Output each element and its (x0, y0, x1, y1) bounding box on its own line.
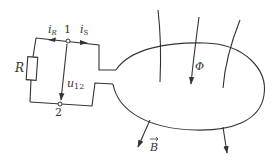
node-1 (66, 39, 70, 43)
current-arrow-R (48, 38, 56, 43)
label-u12: u12 (67, 77, 84, 91)
top-wire (36, 38, 116, 70)
loop (113, 43, 264, 130)
field-arrow (223, 127, 227, 153)
flux-line-arrow (191, 17, 199, 84)
current-arrow-S (80, 40, 88, 45)
label-iS: iS (80, 23, 89, 37)
resistor (26, 57, 38, 81)
label-B: B (149, 141, 158, 154)
left-wire-lower (30, 80, 31, 102)
label-flux: Φ (195, 60, 204, 73)
label-R: R (14, 61, 24, 75)
circuit-diagram: iR 1 iS R u12 2 Φ B (0, 0, 275, 167)
voltage-arrow (61, 44, 67, 100)
left-wire (33, 38, 36, 57)
label-iR: iR (48, 23, 58, 37)
field-arrow (138, 120, 150, 147)
flux-line (223, 20, 240, 88)
label-node1: 1 (64, 23, 71, 36)
label-node2: 2 (55, 106, 62, 119)
